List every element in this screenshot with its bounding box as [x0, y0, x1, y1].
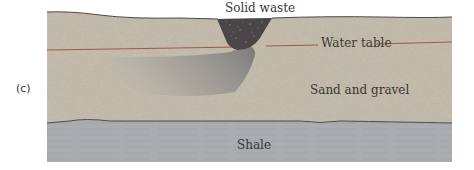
shale-label: Shale	[237, 138, 271, 152]
groundwater-contamination-diagram: (c) Solid waste Water table Sand and gra…	[0, 0, 474, 170]
sand-gravel-label: Sand and gravel	[310, 83, 409, 97]
water-table-label: Water table	[321, 36, 392, 50]
panel-label: (c)	[16, 82, 31, 95]
solid-waste-label: Solid waste	[225, 1, 295, 15]
